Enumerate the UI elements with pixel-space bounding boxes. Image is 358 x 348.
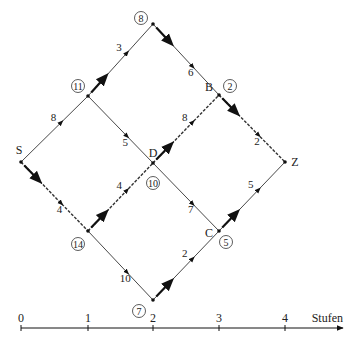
decision-arrow-icon [156, 28, 169, 42]
decision-arrow-icon [24, 165, 37, 179]
node-label: S [16, 143, 23, 157]
node-C: C5 [205, 226, 233, 249]
edge-arrow-icon [257, 190, 258, 191]
edge-N14-N7: 10 [88, 231, 153, 300]
edge-weight-label: 10 [120, 272, 132, 284]
stage-axis: 01234Stufen [18, 311, 343, 331]
axis-tick-label: 4 [282, 311, 288, 325]
axis-tick-label: 0 [18, 311, 24, 325]
edge-N7-C: 2 [153, 231, 219, 300]
node-N8: 8 [135, 12, 155, 26]
node-cost-value: 8 [139, 13, 144, 24]
nodes-group: S11148D107B2C5Z [16, 12, 299, 318]
node-cost-value: 7 [137, 306, 142, 317]
node-N11: 11 [72, 80, 90, 98]
node-label: Z [291, 155, 298, 169]
edge-N14-D: 4 [88, 163, 153, 231]
edge-arrow-icon [60, 122, 61, 123]
edge-D-C: 7 [153, 163, 219, 231]
node-Z: Z [283, 155, 298, 169]
edge-S-N14: 4 [21, 162, 88, 231]
node-label: D [149, 146, 158, 160]
axis-tick-label: 3 [216, 311, 222, 325]
edge-B-Z: 2 [219, 95, 285, 162]
decision-arrow-icon [222, 98, 235, 111]
edge-arrow-icon [191, 259, 192, 260]
edge-weight-label: 6 [188, 66, 194, 78]
decision-arrow-icon [222, 214, 235, 228]
decision-arrow-icon [91, 78, 104, 92]
node-cost-value: 10 [148, 178, 158, 189]
edge-N11-N8: 3 [88, 24, 153, 96]
node-cost-value: 2 [228, 81, 233, 92]
decision-arrow-icon [91, 214, 104, 228]
edge-weight-label: 8 [182, 111, 188, 123]
node-cost-value: 5 [224, 237, 229, 248]
decision-arrow-icon [156, 283, 169, 297]
edge-weight-label: 3 [116, 41, 122, 53]
stage-graph-diagram: 8435410687225 S11148D107B2C5Z 01234Stufe… [0, 0, 358, 348]
decision-arrow-icon [156, 146, 169, 160]
edge-weight-label: 2 [254, 135, 260, 147]
axis-tick-label: 2 [150, 311, 156, 325]
edge-weight-label: 7 [188, 203, 194, 215]
edge-weight-label: 4 [116, 179, 122, 191]
axis-title: Stufen [312, 311, 343, 325]
edge-weight-label: 2 [182, 247, 188, 259]
axis-tick-label: 1 [85, 311, 91, 325]
edge-arrow-icon [126, 53, 127, 54]
node-cost-value: 14 [73, 239, 83, 250]
node-S: S [16, 143, 23, 164]
edge-weight-label: 8 [51, 111, 57, 123]
edge-weight-label: 5 [123, 136, 129, 148]
edge-weight-label: 5 [248, 178, 254, 190]
edge-N11-D: 5 [88, 96, 153, 163]
node-label: C [205, 226, 213, 240]
edge-weight-label: 4 [57, 203, 63, 215]
node-B: B2 [205, 80, 237, 97]
edge-C-Z: 5 [219, 162, 285, 231]
node-label: B [205, 80, 213, 94]
edge-S-N11: 8 [21, 96, 88, 162]
node-N14: 14 [72, 229, 90, 250]
node-cost-value: 11 [73, 81, 83, 92]
edge-D-B: 8 [153, 95, 219, 163]
